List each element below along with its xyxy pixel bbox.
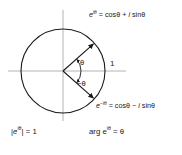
euler-equals-cos: = cosθ +	[97, 10, 129, 19]
label-angle-theta: θ	[80, 59, 84, 67]
label-unit-tick: 1	[110, 60, 114, 68]
conjugate-sin-term: sinθ	[140, 101, 155, 110]
argument-value: = θ	[111, 127, 124, 136]
label-euler-formula: eiθ = cosθ + i sinθ	[89, 11, 145, 18]
argument-prefix: arg e	[89, 127, 107, 136]
conjugate-exponent: −iθ	[100, 101, 107, 106]
label-modulus: |eiθ| = 1	[11, 128, 37, 136]
label-angle-negative-theta: −θ	[77, 80, 86, 88]
modulus-close-bar: | = 1	[22, 127, 37, 136]
euler-sin-term: sinθ	[130, 10, 145, 19]
euler-formula-figure: eiθ = cosθ + i sinθ e−iθ = cosθ − i sinθ…	[0, 0, 182, 155]
label-argument: arg eiθ = θ	[89, 128, 124, 136]
conjugate-equals-cos: = cosθ −	[107, 101, 139, 110]
vector-e-i-theta	[63, 44, 94, 71]
label-conjugate-formula: e−iθ = cosθ − i sinθ	[96, 102, 155, 109]
